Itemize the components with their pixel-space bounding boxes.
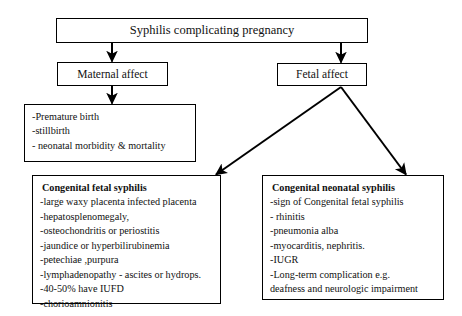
node-congenital-neonatal-syphilis-heading: Congenital neonatal syphilis bbox=[272, 181, 436, 195]
list-item: -large waxy placenta infected placenta bbox=[40, 195, 213, 209]
list-item: -Premature birth bbox=[32, 110, 188, 124]
flowchart-canvas: Syphilis complicating pregnancy Maternal… bbox=[0, 0, 462, 316]
list-item: - rhinitis bbox=[270, 210, 436, 224]
node-maternal-affect-label: Maternal affect bbox=[77, 68, 147, 81]
node-fetal-affect-label: Fetal affect bbox=[296, 68, 348, 81]
list-item: -pneumonia alba bbox=[270, 224, 436, 238]
node-fetal-affect: Fetal affect bbox=[277, 63, 367, 86]
list-item: -petechiae ,purpura bbox=[40, 253, 213, 267]
list-item: -jaundice or hyperbilirubinemia bbox=[40, 239, 213, 253]
node-congenital-fetal-syphilis-heading: Congenital fetal syphilis bbox=[42, 181, 213, 195]
node-maternal-outcomes: -Premature birth -stillbirth - neonatal … bbox=[24, 104, 196, 162]
list-item: -40-50% have IUFD bbox=[40, 282, 213, 296]
list-item: -osteochondritis or periostitis bbox=[40, 224, 213, 238]
list-item: -IUGR bbox=[270, 253, 436, 267]
list-item: -Long-term complication e.g. bbox=[270, 268, 436, 282]
list-item: - neonatal morbidity & mortality bbox=[32, 139, 188, 153]
node-maternal-affect: Maternal affect bbox=[57, 62, 168, 86]
node-congenital-fetal-syphilis: Congenital fetal syphilis -large waxy pl… bbox=[32, 175, 221, 304]
list-item: deafness and neurologic impairment bbox=[270, 282, 436, 296]
node-congenital-neonatal-syphilis: Congenital neonatal syphilis -sign of Co… bbox=[262, 175, 444, 300]
edge-fetal-affect-to-congenital-neonatal-syphilis bbox=[341, 87, 406, 175]
node-syphilis-complicating-pregnancy: Syphilis complicating pregnancy bbox=[56, 18, 368, 43]
list-item: -lymphadenopathy - ascites or hydrops. bbox=[40, 268, 213, 282]
node-title-label: Syphilis complicating pregnancy bbox=[130, 24, 295, 38]
list-item: -hepatosplenomegaly, bbox=[40, 210, 213, 224]
edge-fetal-affect-to-congenital-fetal-syphilis bbox=[216, 87, 341, 175]
list-item: -sign of Congenital fetal syphilis bbox=[270, 195, 436, 209]
list-item: -stillbirth bbox=[32, 124, 188, 138]
list-item: -chorioamnionitis bbox=[40, 297, 213, 311]
list-item: -myocarditis, nephritis. bbox=[270, 239, 436, 253]
